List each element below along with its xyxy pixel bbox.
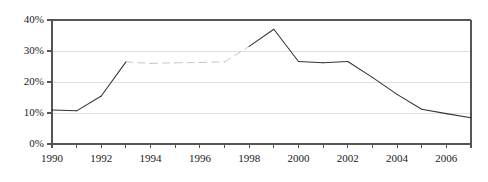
x-axis-tick-label: 1998 <box>225 153 273 164</box>
y-axis-tick-label: 20% <box>24 76 44 87</box>
data-line-segment <box>348 62 373 78</box>
data-line-segment <box>151 63 176 64</box>
x-axis-tick-label: 1990 <box>28 153 76 164</box>
data-line-segment <box>446 114 471 118</box>
data-line-segment <box>372 77 397 94</box>
data-line-segment <box>397 94 422 109</box>
y-axis-tick-label: 0% <box>29 138 44 149</box>
data-series-line <box>52 29 471 117</box>
x-axis-tick-label: 2006 <box>422 153 470 164</box>
data-line-segment <box>249 29 274 46</box>
gridlines <box>52 20 471 113</box>
data-line-segment <box>126 62 151 64</box>
y-axis-tick-label: 40% <box>24 14 44 25</box>
data-line-segment <box>274 29 299 61</box>
data-line-segment <box>323 62 348 63</box>
data-line-segment <box>77 96 102 111</box>
y-axis-tick-label: 30% <box>24 45 44 56</box>
data-line-segment <box>200 62 225 63</box>
x-axis-tick-label: 2004 <box>373 153 421 164</box>
data-line-segment <box>298 62 323 63</box>
x-axis-tick-label: 2002 <box>324 153 372 164</box>
data-line-segment <box>225 46 250 62</box>
data-line-segment <box>52 110 77 111</box>
x-axis-tick-label: 2000 <box>274 153 322 164</box>
line-chart: 40%30%20%10%0% 1990199219941996199820002… <box>0 0 488 182</box>
y-axis-ticks <box>47 20 52 144</box>
x-axis-tick-label: 1992 <box>77 153 125 164</box>
data-line-segment <box>101 62 126 96</box>
x-axis-ticks <box>52 144 471 148</box>
x-axis-tick-label: 1996 <box>176 153 224 164</box>
x-axis-tick-label: 1994 <box>127 153 175 164</box>
y-axis-tick-label: 10% <box>24 107 44 118</box>
